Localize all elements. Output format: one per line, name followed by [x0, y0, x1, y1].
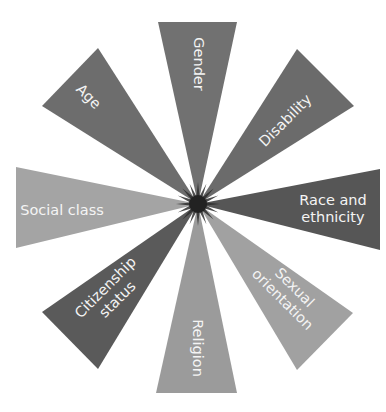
label-line: ethnicity [301, 209, 365, 225]
star-core [189, 195, 207, 213]
label-social-class: Social class [20, 202, 104, 218]
label-line: Gender [191, 37, 207, 90]
center-star-icon [176, 182, 220, 226]
label-line: Social class [20, 202, 104, 218]
intersectionality-diagram: GenderDisabilityRace andethnicitySexualo… [0, 0, 386, 412]
label-religion: Religion [190, 319, 206, 377]
label-race-and-ethnicity: Race andethnicity [299, 192, 366, 225]
label-line: Race and [299, 192, 366, 208]
label-gender: Gender [191, 37, 207, 90]
label-line: Religion [190, 319, 206, 377]
